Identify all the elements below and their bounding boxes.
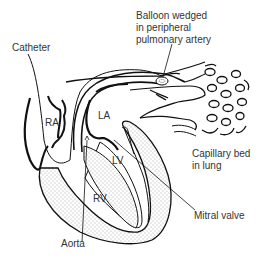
capillary-bed	[202, 65, 249, 135]
label-capillary-line1: Capillary bed	[192, 148, 250, 159]
label-mitral-valve: Mitral valve	[194, 210, 245, 221]
balloon	[156, 77, 168, 85]
pulmonary-vein	[130, 86, 205, 118]
label-rv: RV	[93, 193, 107, 204]
label-la: LA	[98, 110, 110, 121]
la-wall	[86, 100, 118, 150]
heart-outline-left	[25, 98, 40, 170]
label-balloon-line1: Balloon wedged	[136, 10, 207, 21]
label-balloon-line3: pulmonary artery	[136, 34, 211, 45]
label-capillary-line2: in lung	[192, 160, 221, 171]
label-ra: RA	[45, 117, 59, 128]
heart-catheter-diagram: Catheter Balloon wedged in peripheral pu…	[0, 0, 265, 259]
label-lv: LV	[112, 155, 124, 166]
label-aorta: Aorta	[61, 238, 85, 249]
label-catheter: Catheter	[12, 42, 50, 53]
label-balloon-line2: in peripheral	[136, 22, 191, 33]
